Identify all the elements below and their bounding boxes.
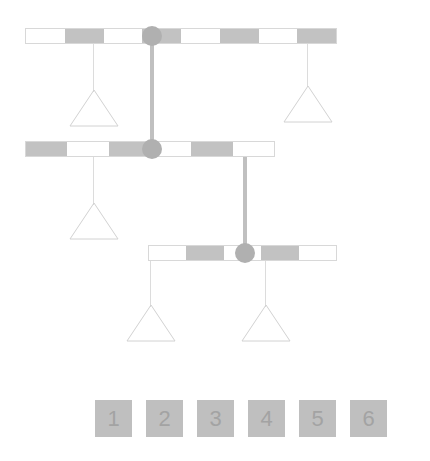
bottom-beam-segment-4 xyxy=(261,246,298,260)
top-beam-segment-2 xyxy=(65,29,104,43)
number-tile-2[interactable]: 2 xyxy=(146,400,183,437)
bottom-beam-pivot[interactable] xyxy=(235,243,255,263)
middle-beam-segment-6 xyxy=(233,142,274,156)
string-bottom-left xyxy=(150,255,151,307)
top-beam-segment-3 xyxy=(104,29,143,43)
number-tile-3[interactable]: 3 xyxy=(197,400,234,437)
middle-beam-segment-1 xyxy=(26,142,67,156)
string-bottom-right xyxy=(265,260,266,307)
top-beam-segment-8 xyxy=(297,29,336,43)
number-tile-tray: 1 2 3 4 5 6 xyxy=(95,400,387,437)
rod-middle-to-bottom xyxy=(243,150,247,252)
string-top-right xyxy=(307,43,308,87)
weight-bottom-right[interactable] xyxy=(240,303,292,343)
middle-beam-pivot[interactable] xyxy=(142,139,162,159)
number-tile-1[interactable]: 1 xyxy=(95,400,132,437)
middle-beam-segment-5 xyxy=(191,142,232,156)
number-tile-6[interactable]: 6 xyxy=(350,400,387,437)
top-beam-segment-5 xyxy=(181,29,220,43)
top-beam-segment-7 xyxy=(259,29,298,43)
middle-beam-segment-2 xyxy=(67,142,108,156)
string-middle-left xyxy=(93,156,94,205)
puzzle-canvas: 1 2 3 4 5 6 xyxy=(0,0,430,461)
bottom-beam-segment-2 xyxy=(186,246,223,260)
top-beam-pivot[interactable] xyxy=(142,26,162,46)
weight-top-left[interactable] xyxy=(68,88,120,128)
top-beam-segment-6 xyxy=(220,29,259,43)
number-tile-4[interactable]: 4 xyxy=(248,400,285,437)
weight-bottom-left[interactable] xyxy=(125,303,177,343)
top-beam-segment-1 xyxy=(26,29,65,43)
weight-middle-left[interactable] xyxy=(68,201,120,241)
string-top-left xyxy=(93,43,94,92)
bottom-beam-segment-1 xyxy=(149,246,186,260)
number-tile-5[interactable]: 5 xyxy=(299,400,336,437)
rod-top-to-middle xyxy=(150,36,154,148)
bottom-beam-segment-5 xyxy=(299,246,336,260)
weight-top-right[interactable] xyxy=(282,84,334,124)
top-beam[interactable] xyxy=(25,28,337,44)
